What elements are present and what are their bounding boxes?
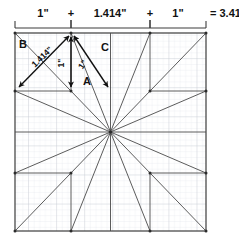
region-label-b: B <box>19 38 27 50</box>
dimension-segment-middle: 1.414" <box>94 7 127 19</box>
dimension-segment-right: 1" <box>172 7 183 19</box>
region-label-c: C <box>101 41 109 53</box>
dimension-plus-2: + <box>147 7 153 19</box>
region-label-a: A <box>83 75 91 87</box>
dimension-plus-1: + <box>68 7 74 19</box>
dimension-segment-left: 1" <box>37 7 48 19</box>
diagram-root: 1" + 1.414" + 1" = 3.414" <box>0 0 239 244</box>
quilt-block-diagram: 1" + 1.414" + 1" = 3.414" <box>0 0 239 244</box>
dimension-total: = 3.414" <box>210 7 239 19</box>
measure-label-vertical-a: 1" <box>56 59 66 68</box>
